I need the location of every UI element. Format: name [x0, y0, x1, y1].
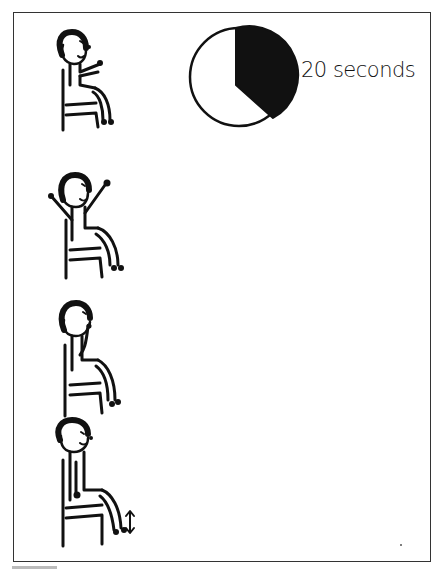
timer-duration-label: 20 seconds — [301, 58, 415, 82]
illustration — [0, 0, 445, 571]
footer-mark — [12, 566, 57, 569]
timer-pie-icon — [190, 26, 298, 126]
up-down-arrow-icon — [126, 511, 134, 533]
figure-step-3 — [62, 303, 121, 416]
figure-step-4 — [58, 420, 134, 546]
figure-step-2 — [48, 175, 124, 278]
figure-step-1 — [60, 32, 114, 130]
